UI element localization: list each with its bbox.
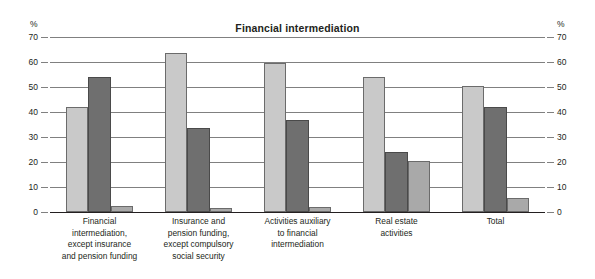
bar-series2-cat5 [484, 107, 506, 212]
y-axis-tick-label-left: 60 [14, 58, 38, 66]
bar-series1-cat1 [66, 107, 88, 212]
y-axis-tick-label-left: 0 [14, 208, 38, 216]
bar-series3-cat4 [408, 161, 430, 212]
y-axis-tick-label-left: 50 [14, 83, 38, 91]
axis-tick-mark [547, 62, 554, 63]
bar-series2-cat4 [385, 152, 407, 212]
bar-series2-cat3 [286, 120, 308, 213]
axis-tick-mark [41, 112, 48, 113]
y-axis-unit-left: % [30, 19, 38, 29]
bar-series3-cat3 [309, 207, 331, 212]
bar-series1-cat4 [363, 77, 385, 212]
bar-series1-cat3 [264, 63, 286, 212]
bar-series2-cat2 [187, 128, 209, 212]
bars-layer [50, 37, 545, 212]
bar-chart: Financial intermediation % % 00101020203… [0, 0, 595, 279]
category-label-line: social security [124, 251, 274, 263]
y-axis-tick-label-right: 40 [557, 108, 581, 116]
y-axis-unit-right: % [557, 19, 565, 29]
plot-area: 001010202030304040505060607070 [50, 37, 545, 212]
y-axis-tick-label-left: 10 [14, 183, 38, 191]
category-label-line: intermediation [223, 239, 373, 251]
axis-tick-mark [41, 62, 48, 63]
y-axis-tick-label-left: 30 [14, 133, 38, 141]
axis-tick-mark [41, 162, 48, 163]
category-label-5: Total [421, 216, 571, 228]
y-axis-tick-label-right: 70 [557, 33, 581, 41]
axis-tick-mark [41, 137, 48, 138]
axis-tick-mark [547, 87, 554, 88]
axis-tick-mark [41, 37, 48, 38]
y-axis-tick-label-left: 70 [14, 33, 38, 41]
category-label-line: activities [322, 228, 472, 240]
bar-series2-cat1 [88, 77, 110, 212]
y-axis-tick-label-left: 20 [14, 158, 38, 166]
chart-title: Financial intermediation [0, 22, 595, 34]
axis-baseline [50, 212, 545, 213]
axis-tick-mark [41, 187, 48, 188]
bar-series3-cat5 [507, 198, 529, 212]
axis-tick-mark [547, 212, 554, 213]
axis-tick-mark [41, 212, 48, 213]
y-axis-tick-label-right: 0 [557, 208, 581, 216]
bar-series3-cat2 [210, 208, 232, 212]
category-axis-labels: Financialintermediation,except insurance… [50, 216, 545, 276]
axis-tick-mark [547, 162, 554, 163]
y-axis-tick-label-right: 20 [557, 158, 581, 166]
axis-tick-mark [547, 187, 554, 188]
bar-series1-cat5 [462, 86, 484, 212]
y-axis-tick-label-right: 10 [557, 183, 581, 191]
bar-series3-cat1 [111, 206, 133, 212]
axis-tick-mark [547, 137, 554, 138]
category-label-line: Total [421, 216, 571, 228]
y-axis-tick-label-right: 30 [557, 133, 581, 141]
y-axis-tick-label-right: 60 [557, 58, 581, 66]
y-axis-tick-label-right: 50 [557, 83, 581, 91]
y-axis-tick-label-left: 40 [14, 108, 38, 116]
bar-series1-cat2 [165, 53, 187, 212]
axis-tick-mark [41, 87, 48, 88]
axis-tick-mark [547, 112, 554, 113]
axis-tick-mark [547, 37, 554, 38]
